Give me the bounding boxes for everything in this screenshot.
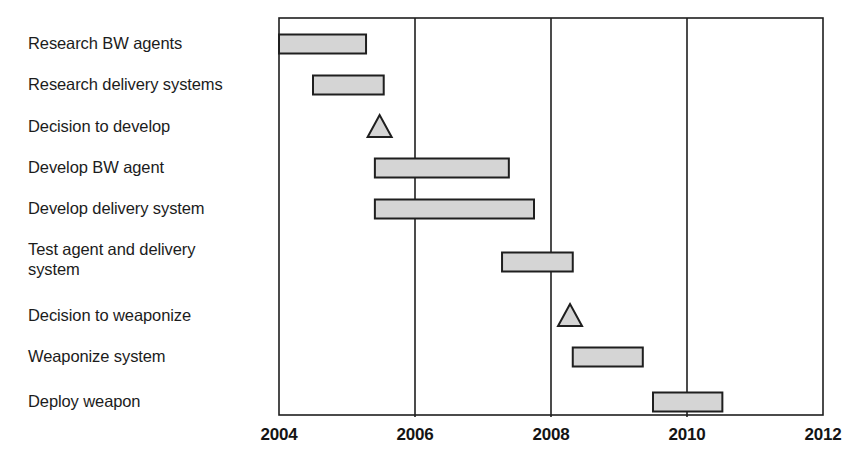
gantt-chart: Research BW agents Research delivery sys… <box>0 0 866 473</box>
x-tick-label-2010: 2010 <box>668 425 705 445</box>
gantt-bar-research-delivery-systems <box>313 76 384 95</box>
milestone-marker-decision-to-develop <box>368 115 392 137</box>
gantt-bar-research-bw-agents <box>279 35 366 54</box>
x-tick-label-2006: 2006 <box>396 425 433 445</box>
gantt-bar-deploy-weapon <box>653 393 722 412</box>
gantt-bar-test-agent-and-delivery-system <box>502 253 573 272</box>
gantt-bar-develop-delivery-system <box>375 200 534 219</box>
plot-marks <box>279 35 722 412</box>
x-tick-label-2012: 2012 <box>804 425 841 445</box>
gantt-bar-develop-bw-agent <box>375 159 509 178</box>
milestone-marker-decision-to-weaponize <box>558 304 582 326</box>
x-tick-label-2008: 2008 <box>532 425 569 445</box>
gantt-bar-weaponize-system <box>573 348 643 367</box>
gantt-plot-area <box>0 0 866 473</box>
x-tick-label-2004: 2004 <box>260 425 297 445</box>
